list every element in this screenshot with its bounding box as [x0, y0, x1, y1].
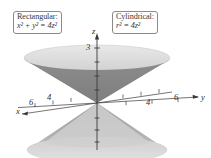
y-axis-ticks [126, 98, 178, 105]
x-tick-label-6: 6 [29, 97, 33, 107]
z-tick-label-3: 3 [86, 42, 90, 52]
y-tick-label-4: 4 [146, 97, 150, 107]
y-tick-label-6: 6 [174, 92, 178, 102]
cylindrical-box-equation: r² = 4z² [116, 22, 154, 31]
rectangular-equation-box: Rectangular: x² + y² = 4z² [13, 11, 62, 34]
cylindrical-equation-box: Cylindrical: r² = 4z² [112, 11, 158, 34]
x-tick-label-4: 4 [47, 92, 51, 102]
x-axis-label: x [16, 106, 20, 116]
y-axis-label: y [201, 92, 205, 102]
rectangular-box-equation: x² + y² = 4z² [17, 22, 58, 31]
z-axis-label: z [92, 26, 95, 36]
